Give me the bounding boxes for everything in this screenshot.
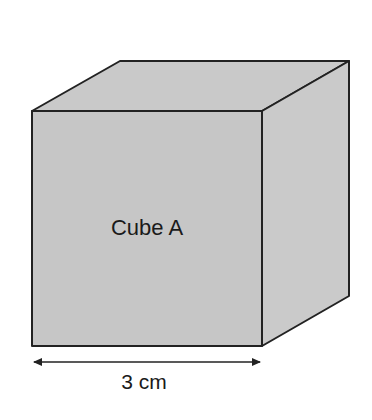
cube bbox=[32, 61, 349, 346]
cube-right-face bbox=[262, 61, 349, 346]
cube-diagram: Cube A 3 cm bbox=[0, 0, 372, 420]
cube-label: Cube A bbox=[111, 215, 183, 240]
dimension-label: 3 cm bbox=[121, 370, 167, 393]
